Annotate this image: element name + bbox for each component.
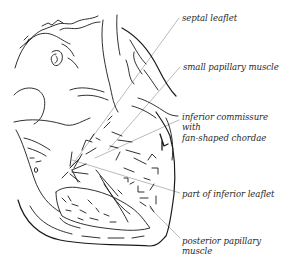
leader-lines — [70, 18, 180, 238]
label-text: part of inferior leaflet — [182, 189, 274, 199]
drawing-strokes — [14, 15, 178, 246]
label-part-of-inferior-leaflet: part of inferior leaflet — [182, 189, 274, 199]
label-text: small papillary muscle — [183, 62, 279, 72]
anatomical-diagram: septal leaflet small papillary muscle in… — [0, 0, 284, 261]
label-small-papillary-muscle: small papillary muscle — [183, 62, 279, 72]
label-text: fan-shaped chordae — [182, 133, 268, 143]
label-text: muscle — [182, 246, 261, 256]
label-posterior-papillary-muscle: posterior papillary muscle — [182, 236, 261, 257]
label-text: with — [182, 122, 268, 132]
label-text: septal leaflet — [182, 13, 237, 23]
label-septal-leaflet: septal leaflet — [182, 13, 237, 23]
label-inferior-commissure: inferior commissure with fan-shaped chor… — [182, 112, 268, 143]
label-text: inferior commissure — [182, 112, 268, 122]
label-text: posterior papillary — [182, 236, 261, 246]
